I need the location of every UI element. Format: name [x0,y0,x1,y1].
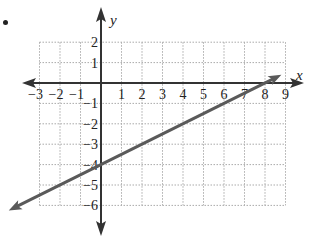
y-tick-label: 1 [91,56,98,71]
x-tick-label: 2 [139,87,146,102]
y-tick-label: −1 [83,96,98,111]
x-tick-label: 3 [159,87,166,102]
x-axis-label: x [295,67,303,83]
x-tick-label: 4 [180,87,187,102]
y-axis-label: y [108,12,117,28]
y-tick-label: −5 [83,178,98,193]
grid [40,42,286,205]
x-tick-label: 6 [221,87,228,102]
y-tick-label: 2 [91,35,98,50]
x-tick-label: −3 [28,87,43,102]
y-tick-label: −2 [83,117,98,132]
x-tick-label: −1 [69,87,84,102]
x-tick-label: 5 [200,87,207,102]
coordinate-graph: −3−2−112345678921−1−2−3−4−5−6 x y [0,0,319,247]
y-tick-label: −6 [83,198,98,213]
x-tick-label: 9 [282,87,289,102]
x-tick-label: 1 [118,87,125,102]
y-tick-label: −3 [83,137,98,152]
x-tick-label: 8 [262,87,269,102]
x-tick-label: −2 [49,87,64,102]
